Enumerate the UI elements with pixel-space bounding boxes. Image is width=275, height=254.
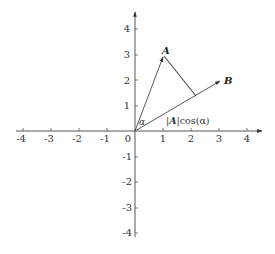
y-tick-labels: 4 3 2 1 -1 -2 -3 -4: [122, 23, 132, 238]
vector-diagram: -4 -3 -2 -1 0 1 2 3 4 4 3 2 1 -1 -2 -3 -…: [0, 0, 275, 254]
y-tick-label: 1: [124, 100, 130, 111]
x-tick-label: 2: [188, 133, 194, 144]
vector-a-label: A: [161, 45, 170, 56]
x-tick-labels: -4 -3 -2 -1 0 1 2 3 4: [16, 133, 250, 144]
y-tick-label: 2: [124, 75, 130, 86]
diagram-canvas: -4 -3 -2 -1 0 1 2 3 4 4 3 2 1 -1 -2 -3 -…: [0, 0, 275, 254]
projection-label: |A|cos(α): [166, 115, 210, 127]
y-tick-label: -3: [122, 202, 132, 213]
x-tick-label: -4: [16, 133, 26, 144]
x-tick-label: -3: [44, 133, 54, 144]
x-tick-label: 1: [160, 133, 166, 144]
x-tick-label: 3: [216, 133, 222, 144]
y-tick-label: -2: [122, 176, 132, 187]
vector-b-label: B: [223, 75, 232, 86]
x-tick-label: -1: [100, 133, 110, 144]
x-tick-label: -2: [72, 133, 82, 144]
y-tick-label: 4: [124, 23, 130, 34]
projection-vector-symbol: A: [168, 115, 176, 126]
x-tick-label: 4: [244, 133, 250, 144]
y-tick-label: 3: [124, 49, 130, 60]
y-tick-label: -1: [122, 151, 132, 162]
cos-alpha-text: |cos(α): [177, 115, 210, 127]
y-tick-label: -4: [122, 227, 132, 238]
origin-label: 0: [125, 133, 131, 144]
projection-line: [164, 56, 196, 96]
angle-label: α: [139, 117, 145, 127]
